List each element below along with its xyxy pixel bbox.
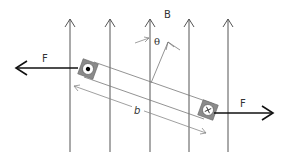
field-line-arrow-icon [223,19,233,152]
field-line-arrow-icon [65,19,75,152]
magnetic-field-diagram: B θ b F [0,0,284,161]
field-line-arrow-icon [184,19,194,152]
force-label-right: F [240,98,246,109]
conductor-out-of-page [78,59,99,80]
field-lines [65,19,233,152]
field-line-arrow-icon [105,19,115,152]
normal-vector [151,42,180,83]
force-label-left: F [42,53,48,64]
angle-label: θ [154,36,160,47]
field-label: B [164,9,171,20]
length-label: b [134,105,140,116]
conductor-bar [84,62,214,119]
conductor-into-page [198,100,219,121]
angle-indicator [135,37,149,43]
